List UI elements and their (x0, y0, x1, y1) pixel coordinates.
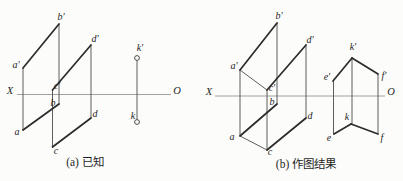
panel-a-label-c: c (54, 145, 59, 156)
panel-b-line-e-k-front (333, 58, 352, 81)
panel-a-label-d: d (93, 108, 99, 119)
panel-b-label-a-prime: a′ (230, 60, 238, 71)
panel-b-caption: (b) 作图结果 (276, 158, 337, 171)
panel-b-label-b-prime: b′ (275, 10, 283, 21)
panel-b-line-e-k-top (334, 124, 351, 134)
panel-a-axis-label-x: X (6, 85, 14, 96)
panel-b-label-f: f (381, 132, 385, 143)
panel-b-label-d: d (308, 110, 314, 121)
panel-a-label-d-prime: d′ (91, 33, 99, 44)
panel-a-caption: (a) 已知 (66, 155, 104, 169)
panel-a-label-a: a (15, 126, 20, 137)
panel-a-label-a-prime: a′ (12, 59, 20, 70)
panel-a-label-b-prime: b′ (57, 11, 65, 22)
panel-b-label-c: c (268, 146, 273, 157)
panel-b-label-e-prime: e′ (324, 71, 331, 82)
panel-a-point-k-prime-marker (135, 56, 140, 61)
panel-b-label-d-prime: d′ (306, 34, 314, 45)
panel-a-label-b: b (51, 97, 56, 108)
panel-b-label-c-prime: c′ (269, 82, 276, 93)
panel-b-axis-label-x: X (205, 86, 213, 97)
panel-a-label-c-prime: c′ (54, 80, 61, 91)
panel-b-construction-a-c-front (240, 70, 267, 90)
panel-b-label-e: e (327, 132, 332, 143)
panel-a-line-c-d-top (53, 118, 92, 147)
panel-b-label-k-prime: k′ (350, 41, 357, 52)
panel-b-label-k: k (345, 111, 350, 122)
panel-b-line-a-b-top (240, 104, 277, 136)
panel-b-construction-a-c-top (240, 136, 267, 150)
panel-b-axis-label-o: O (387, 86, 395, 97)
panel-b-label-a: a (230, 131, 235, 142)
descriptive-geometry-figure: X O a′ b′ c′ d′ a b c d (0, 0, 403, 181)
panel-b-label-f-prime: f′ (382, 70, 388, 81)
panel-b-line-c-d-top (267, 118, 306, 150)
panel-a-point-k-marker (135, 120, 140, 125)
panel-b: X O a′ b′ (205, 10, 395, 171)
panel-b-line-a-b-front (240, 23, 277, 70)
panel-b-label-b: b (270, 96, 275, 107)
panel-b-line-k-f-top (351, 124, 378, 134)
panel-b-line-k-f-front (352, 58, 378, 74)
panel-a-label-k-prime: k′ (137, 42, 144, 53)
panel-a-label-k: k (131, 110, 136, 121)
panel-a-axis-label-o: O (173, 85, 181, 96)
panel-a-line-a-b-front (23, 24, 59, 68)
panel-a: X O a′ b′ c′ d′ a b c d (6, 11, 181, 169)
figure-canvas: X O a′ b′ c′ d′ a b c d (0, 0, 403, 181)
